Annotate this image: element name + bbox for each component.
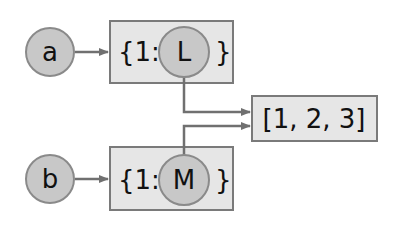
dict-key-obj-m: M (173, 165, 195, 195)
dict-key-obj-l: L (177, 37, 192, 67)
dict-close-a: } (215, 37, 232, 67)
dict-open-b: {1: (118, 165, 160, 195)
dict-close-b: } (215, 165, 232, 195)
dict-open-a: {1: (118, 37, 160, 67)
reference-diagram: a b {1: L } {1: M } [1, 2, 3] (0, 0, 397, 225)
var-label-a: a (42, 37, 58, 67)
var-label-b: b (42, 164, 59, 194)
list-label: [1, 2, 3] (263, 104, 366, 134)
